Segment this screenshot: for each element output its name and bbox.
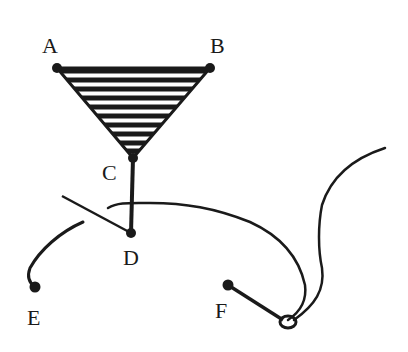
label-a: A: [42, 35, 58, 57]
rod-cd: [131, 158, 133, 233]
label-e: E: [27, 307, 40, 329]
point-e: [30, 282, 41, 293]
label-b: B: [210, 35, 225, 57]
point-b: [205, 63, 215, 73]
loop-knot: [280, 316, 296, 328]
string-f: [228, 285, 283, 320]
label-d: D: [123, 247, 139, 269]
string-up: [294, 148, 385, 320]
point-c: [128, 153, 138, 163]
label-f: F: [215, 300, 227, 322]
point-d: [126, 228, 136, 238]
point-a: [52, 63, 62, 73]
point-f: [223, 280, 234, 291]
triangle-abc: [50, 68, 220, 158]
diagram-canvas: [0, 0, 408, 352]
label-c: C: [102, 162, 117, 184]
string-e: [28, 222, 83, 287]
